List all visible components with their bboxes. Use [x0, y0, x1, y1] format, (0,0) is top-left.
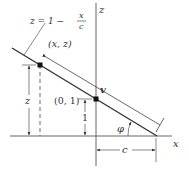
vector-v-label: v: [100, 84, 106, 95]
point-general-label: (x, z): [48, 38, 72, 49]
equation-fraction-numerator: x: [79, 11, 84, 20]
line-geometry-diagram: z x z = 1 − x c (x, z) (0, 1) z 1 c v φ: [0, 0, 189, 169]
z-dimension-label: z: [24, 95, 31, 106]
x-axis-label: x: [173, 138, 179, 149]
point-general: [38, 63, 43, 68]
equation-fraction-denominator: c: [79, 22, 84, 31]
angle-phi-label: φ: [117, 123, 124, 134]
angle-arc: [128, 122, 131, 136]
z-axis-label: z: [98, 4, 105, 15]
point-intercept-label: (0, 1): [54, 95, 80, 106]
c-dimension-label: c: [122, 144, 128, 155]
vector-v-end-tick: [156, 118, 164, 132]
equation-text: z = 1 −: [29, 16, 64, 26]
equation-leader: [24, 23, 45, 55]
point-intercept: [94, 97, 99, 102]
unit-dimension-label: 1: [82, 112, 88, 123]
